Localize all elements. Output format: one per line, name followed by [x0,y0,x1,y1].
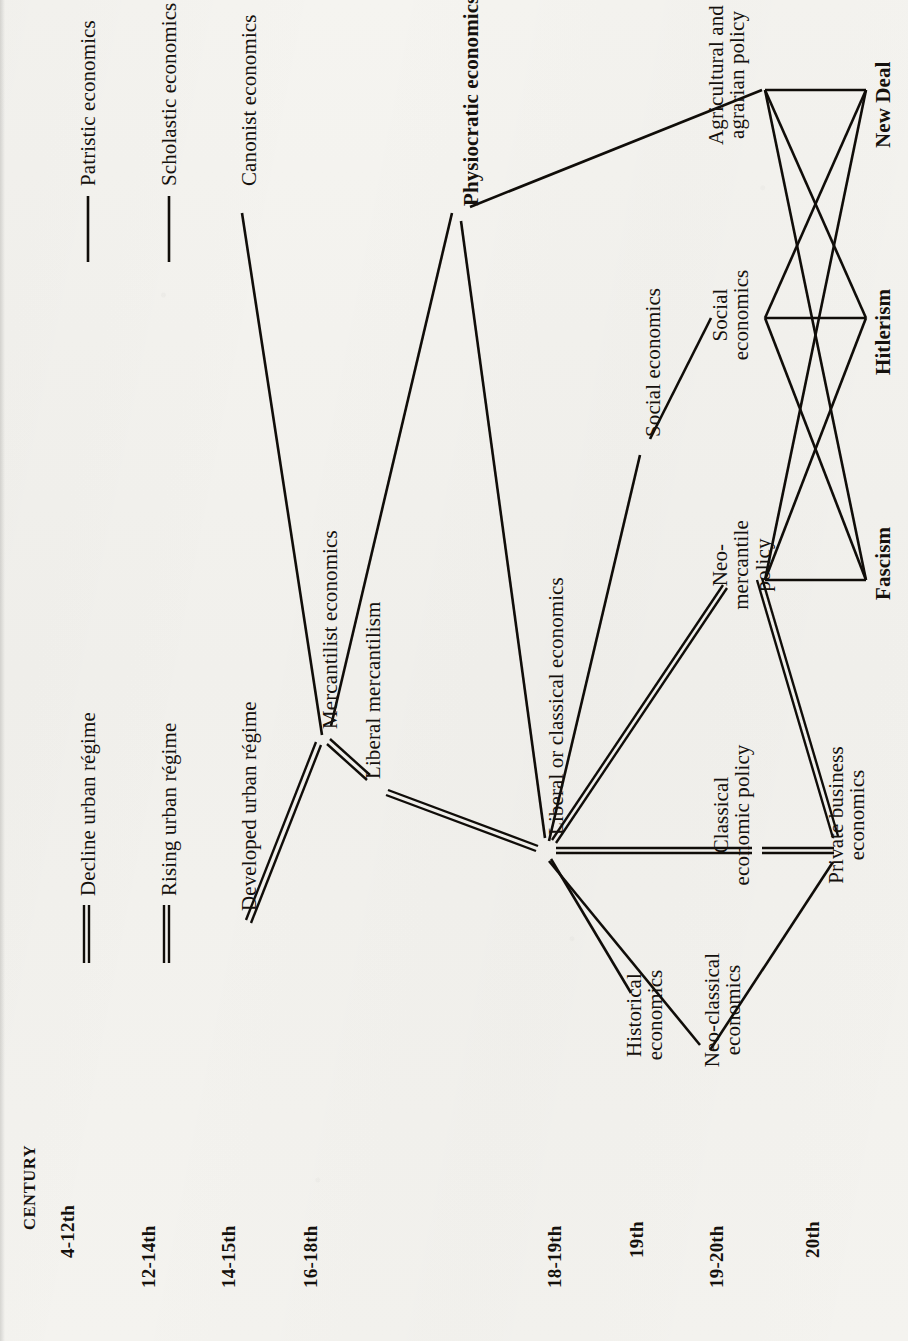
century-label-16-18th: 16-18th [301,1225,320,1288]
node-canonist-economics: Canonist economics [239,14,260,186]
node-historical-economics: Historical economics [624,940,667,1090]
node-social-economics-19-20th: Social economics [710,260,753,370]
lineage-edges [0,0,908,1341]
node-fascism: Fascism [873,527,894,600]
node-rising-urban-regime: Rising urban régime [159,723,180,896]
node-mercantilist-economics: Mercantilist economics [320,530,341,729]
node-scholastic-economics: Scholastic economics [159,3,180,186]
node-developed-urban-regime: Developed urban régime [239,701,260,911]
century-label-18-19th: 18-19th [545,1225,564,1288]
chart-page: CENTURY 4-12th 12-14th 14-15th 16-18th 1… [0,0,908,1341]
century-label-19th: 19th [627,1221,646,1258]
node-neo-mercantile-policy: Neo-mercantile policy [710,500,774,630]
century-label-19-20th: 19-20th [707,1225,726,1288]
node-liberal-mercantilism: Liberal mercantilism [363,601,384,779]
node-social-economics-19th: Social economics [643,288,664,437]
axis-title: CENTURY [22,1145,39,1230]
node-hitlerism: Hitlerism [873,289,894,375]
node-agricultural-and-agrarian-policy: Agricultural and agrarian policy [706,0,749,150]
node-physiocratic-economics: Physiocratic economics [461,0,482,206]
node-neo-classical-economics: Neo-classical economics [702,930,745,1090]
node-private-business-economics: Private business economics [826,735,869,895]
century-label-20th: 20th [803,1221,822,1258]
node-patristic-economics: Patristic economics [78,20,99,186]
node-decline-urban-regime: Decline urban régime [78,712,99,896]
century-label-14-15th: 14-15th [219,1225,238,1288]
node-liberal-or-classical-economics: Liberal or classical economics [546,577,567,835]
century-label-12-14th: 12-14th [139,1225,158,1288]
node-classical-economic-policy: Classical economic policy [711,735,754,895]
century-label-4-12th: 4-12th [58,1205,77,1258]
node-new-deal: New Deal [873,61,894,148]
